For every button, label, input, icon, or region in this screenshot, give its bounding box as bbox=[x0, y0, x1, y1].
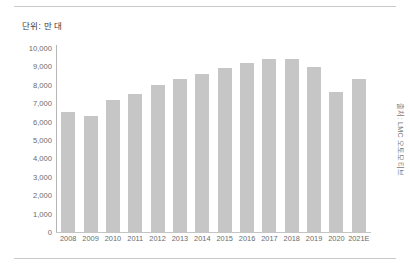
bar-slot bbox=[262, 48, 276, 232]
bar-slot bbox=[151, 48, 165, 232]
bar-slot bbox=[173, 48, 187, 232]
y-axis-tick-labels: 10,0009,0008,0007,0006,0005,0004,0003,00… bbox=[0, 0, 52, 271]
x-axis-tick-labels: 2008200920102011201220132014201520162017… bbox=[57, 234, 370, 248]
y-axis-tick: 4,000 bbox=[33, 154, 52, 163]
bar-slot bbox=[128, 48, 142, 232]
y-axis-tick: 3,000 bbox=[33, 172, 52, 181]
chart-figure: 단위: 만 대 10,0009,0008,0007,0006,0005,0004… bbox=[0, 0, 410, 271]
bar bbox=[61, 112, 75, 232]
bar-slot bbox=[352, 48, 366, 232]
y-axis-tick: 9,000 bbox=[33, 62, 52, 71]
y-axis-tick: 10,000 bbox=[29, 44, 52, 53]
bar bbox=[352, 79, 366, 232]
y-axis-tick: 5,000 bbox=[33, 136, 52, 145]
bar bbox=[329, 92, 343, 232]
bar bbox=[128, 94, 142, 232]
y-axis-tick: 0 bbox=[48, 228, 52, 237]
bar-slot bbox=[218, 48, 232, 232]
bar-slot bbox=[61, 48, 75, 232]
bar-slot bbox=[84, 48, 98, 232]
bar bbox=[240, 63, 254, 232]
top-divider-rule bbox=[14, 6, 396, 7]
bar-slot bbox=[106, 48, 120, 232]
bar-slot bbox=[240, 48, 254, 232]
y-axis-tick: 2,000 bbox=[33, 191, 52, 200]
bar-slot bbox=[285, 48, 299, 232]
bar bbox=[195, 74, 209, 232]
plot-area bbox=[57, 44, 370, 232]
source-note: 출처: LMC 오토모티브 bbox=[396, 103, 406, 176]
y-axis-tick: 8,000 bbox=[33, 80, 52, 89]
bar bbox=[218, 68, 232, 232]
bar bbox=[151, 85, 165, 232]
bar bbox=[173, 79, 187, 232]
bar bbox=[106, 100, 120, 232]
bar-slot bbox=[195, 48, 209, 232]
x-axis-baseline bbox=[56, 232, 371, 233]
bar bbox=[285, 59, 299, 232]
bar-slot bbox=[307, 48, 321, 232]
bar bbox=[307, 67, 321, 232]
y-axis-tick: 7,000 bbox=[33, 99, 52, 108]
bar bbox=[262, 59, 276, 232]
bottom-divider-rule bbox=[14, 258, 396, 259]
y-axis-tick: 1,000 bbox=[33, 209, 52, 218]
bar bbox=[84, 116, 98, 232]
x-axis-tick: 2021E bbox=[344, 234, 374, 243]
y-axis-tick: 6,000 bbox=[33, 117, 52, 126]
bar-slot bbox=[329, 48, 343, 232]
